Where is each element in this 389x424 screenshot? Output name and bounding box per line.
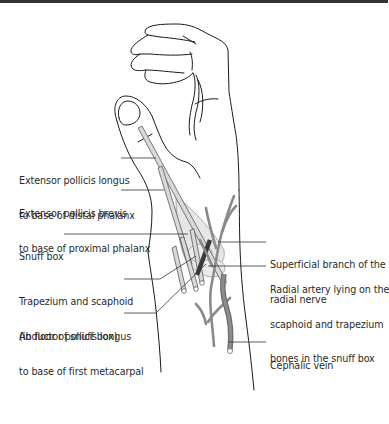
label-artery-line1: Radial artery lying on the <box>270 284 389 296</box>
index-finger <box>145 29 195 42</box>
middle-finger <box>131 35 192 55</box>
label-snuffbox-line1: Snuff box <box>19 251 64 263</box>
apl-tendon-end-1 <box>182 289 187 294</box>
cephalic-vein-end <box>228 349 233 354</box>
label-apl-line1: Abductor pollicis longus <box>19 331 144 343</box>
label-abductor-pollicis-longus: Abductor pollicis longus to base of firs… <box>19 308 144 389</box>
forearm-radial-edge <box>148 252 161 372</box>
label-apl-line2: to base of first metacarpal <box>19 366 144 378</box>
label-cephalic-vein: Cephalic vein <box>270 337 333 383</box>
label-snuff-box: Snuff box <box>19 228 64 274</box>
label-artery-line2: scaphoid and trapezium <box>270 319 389 331</box>
thumbnail <box>118 101 140 125</box>
radial-nerve-lower-branch <box>196 304 206 324</box>
label-vein-line1: Cephalic vein <box>270 360 333 372</box>
label-trapezium-line1: Trapezium and scaphoid <box>19 296 133 308</box>
ring-finger <box>131 54 184 73</box>
apl-tendon-end-3 <box>200 281 205 286</box>
forearm-ulnar-edge <box>239 190 254 390</box>
apl-tendon-end-2 <box>194 287 199 292</box>
label-epb-line1: Extensor pollicis brevis <box>19 208 150 220</box>
